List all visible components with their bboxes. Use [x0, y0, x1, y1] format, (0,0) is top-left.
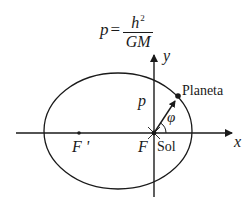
formula-numerator-base: h [131, 14, 139, 31]
formula-fraction: h2 GM [123, 10, 153, 50]
y-axis-label: y [163, 48, 170, 64]
p-label: p [138, 93, 146, 109]
orbit-ellipse [44, 73, 192, 189]
angle-phi-label: φ [167, 110, 175, 125]
formula-denominator: GM [126, 33, 151, 50]
sun-label: Sol [157, 140, 176, 154]
orbit-diagram: p = h2 GM y x p Planeta φ F ' F Sol [0, 0, 248, 220]
formula-numerator: h2 [131, 10, 145, 32]
angle-arc [161, 123, 166, 133]
x-axis-label: x [234, 134, 241, 150]
planet-dot [175, 93, 181, 99]
planet-label: Planeta [182, 84, 223, 98]
semi-latus-rectum-formula: p = h2 GM [100, 10, 153, 50]
formula-lhs: p [100, 20, 109, 40]
focus-empty-label: F ' [72, 139, 89, 155]
formula-equals: = [111, 20, 121, 40]
formula-numerator-exponent: 2 [140, 13, 145, 23]
focus-sun-label: F [138, 139, 148, 155]
focus-empty-dot [77, 131, 81, 135]
